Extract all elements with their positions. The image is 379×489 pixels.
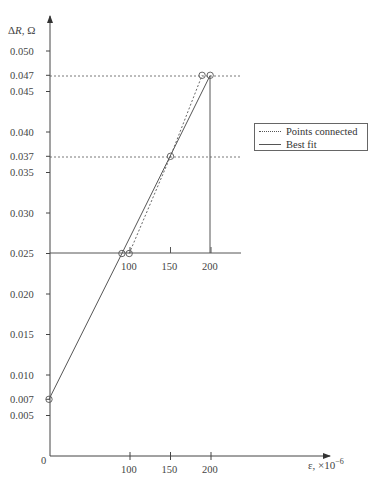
y-tick-label: 0.025 [10,248,34,259]
x-tick-label: 100 [121,464,137,475]
y-tick-label: 0.010 [10,370,34,381]
x-tick-label: 150 [162,464,178,475]
y-tick-label: 0.050 [10,46,34,57]
legend-label: Points connected [286,126,357,137]
solid-line-swatch-icon [259,144,281,145]
dotted-line-swatch-icon [259,131,281,132]
y-tick-label: 0.047 [10,70,34,81]
origin-label: 0 [41,455,46,466]
x-tick-label: 200 [202,464,218,475]
inset-x-tick-label: 150 [162,261,178,272]
legend-label: Best fit [286,139,317,150]
strain-resistance-chart: 0.0500.0470.0450.0400.0370.0350.0300.025… [0,0,379,489]
y-tick-label: 0.045 [10,86,34,97]
x-axis-title: ε, ×10−6 [308,457,344,471]
inset-x-tick-label: 200 [202,261,218,272]
inset-x-ticks: 100150200 [121,247,218,272]
legend: Points connected Best fit [254,123,368,151]
y-tick-label: 0.035 [10,167,34,178]
y-tick-label: 0.030 [10,208,34,219]
y-axis-title: ΔR, Ω [8,24,36,36]
y-tick-label: 0.007 [10,394,34,405]
y-tick-label: 0.005 [10,410,34,421]
y-ticks: 0.0500.0470.0450.0400.0370.0350.0300.025… [10,46,50,422]
y-tick-label: 0.020 [10,289,34,300]
series-best-fit [49,75,210,399]
inset-x-tick-label: 100 [121,261,137,272]
y-tick-label: 0.015 [10,329,34,340]
y-tick-label: 0.037 [10,151,34,162]
legend-item-best-fit: Best fit [255,138,367,151]
x-ticks: 100150200 [121,452,218,475]
legend-item-points-connected: Points connected [255,125,367,138]
y-tick-label: 0.040 [10,127,34,138]
